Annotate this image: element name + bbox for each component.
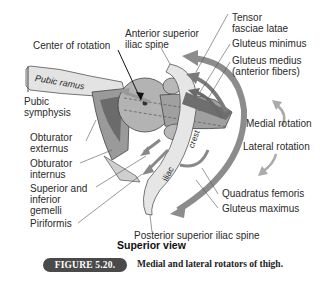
label-superior-inferior-gemelli-1: Superior and [30,183,87,194]
figure-number-badge: FIGURE 5.20. [43,258,127,272]
label-obturator-internus-1: Obturator [30,158,72,169]
label-gluteus-medius-1: Gluteus medius [232,55,301,66]
label-quadratus-femoris: Quadratus femoris [222,188,304,199]
label-obturator-externus-2: externus [30,143,68,154]
label-lateral-rotation: Lateral rotation [243,141,310,152]
label-superior-inferior-gemelli-3: gemelli [30,205,62,216]
figure-caption: Medial and lateral rotators of thigh. [137,259,283,269]
label-pubic-symphysis-1: Pubic [24,96,49,107]
label-gluteus-medius-2: (anterior fibers) [232,66,300,77]
label-superior-inferior-gemelli-2: inferior [30,194,61,205]
label-gluteus-minimus: Gluteus minimus [232,38,306,49]
label-tensor-fasciae-latae-2: fasciae latae [232,23,288,34]
label-tensor-fasciae-latae-1: Tensor [232,12,262,23]
label-gluteus-maximus: Gluteus maximus [222,203,299,214]
label-medial-rotation: Medial rotation [246,118,312,129]
label-anterior-superior-iliac-spine-1: Anterior superior [125,28,199,39]
label-obturator-externus-1: Obturator [30,132,72,143]
label-obturator-internus-2: internus [30,169,66,180]
label-pubic-symphysis-2: symphysis [24,107,71,118]
label-piriformis: Piriformis [30,218,72,229]
label-superior-view: Superior view [117,240,186,251]
label-anterior-superior-iliac-spine-2: iliac spine [125,39,169,50]
label-center-of-rotation: Center of rotation [33,40,110,51]
